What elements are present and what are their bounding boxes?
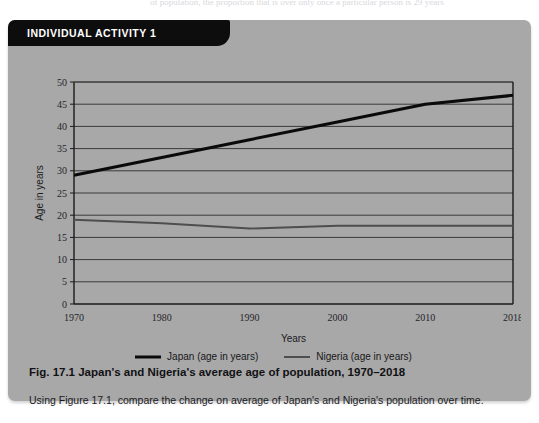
y-tick-label: 30	[57, 165, 67, 176]
figure-chart: 0510152025303540455019701980199020002010…	[26, 54, 521, 344]
activity-banner: INDIVIDUAL ACTIVITY 1	[8, 20, 230, 46]
legend-swatch-icon	[284, 353, 310, 361]
x-tick-label: 1970	[64, 312, 84, 323]
page-bleed-text: of population, the proportion that is ov…	[150, 0, 530, 9]
series-line-nigeria	[74, 220, 513, 229]
x-tick-label: 2000	[327, 312, 347, 323]
y-tick-label: 0	[62, 299, 67, 310]
y-tick-label: 10	[57, 254, 67, 265]
chart-legend: Japan (age in years)Nigeria (age in year…	[26, 351, 521, 362]
y-axis-title: Age in years	[34, 165, 45, 221]
legend-label: Nigeria (age in years)	[316, 351, 412, 362]
activity-banner-label: INDIVIDUAL ACTIVITY 1	[8, 27, 156, 39]
y-tick-label: 5	[62, 276, 67, 287]
x-tick-label: 1980	[152, 312, 172, 323]
legend-label: Japan (age in years)	[167, 351, 258, 362]
series-line-japan	[74, 95, 513, 175]
legend-swatch-icon	[135, 353, 161, 361]
line-chart-svg: 0510152025303540455019701980199020002010…	[26, 54, 521, 344]
x-tick-label: 2010	[415, 312, 435, 323]
x-tick-label: 1990	[240, 312, 260, 323]
y-tick-label: 25	[57, 188, 67, 199]
legend-item-nigeria: Nigeria (age in years)	[284, 351, 412, 362]
legend-item-japan: Japan (age in years)	[135, 351, 258, 362]
y-tick-label: 50	[57, 77, 67, 88]
x-tick-label: 2018	[503, 312, 521, 323]
activity-card: INDIVIDUAL ACTIVITY 1 051015202530354045…	[8, 20, 531, 401]
y-tick-label: 35	[57, 143, 67, 154]
x-axis-title: Years	[281, 333, 306, 344]
y-tick-label: 40	[57, 121, 67, 132]
activity-instruction: Using Figure 17.1, compare the change on…	[29, 394, 529, 406]
y-tick-label: 20	[57, 210, 67, 221]
y-tick-label: 45	[57, 99, 67, 110]
page-root: of population, the proportion that is ov…	[0, 0, 539, 423]
figure-caption: Fig. 17.1 Japan's and Nigeria's average …	[29, 366, 519, 378]
y-tick-label: 15	[57, 232, 67, 243]
